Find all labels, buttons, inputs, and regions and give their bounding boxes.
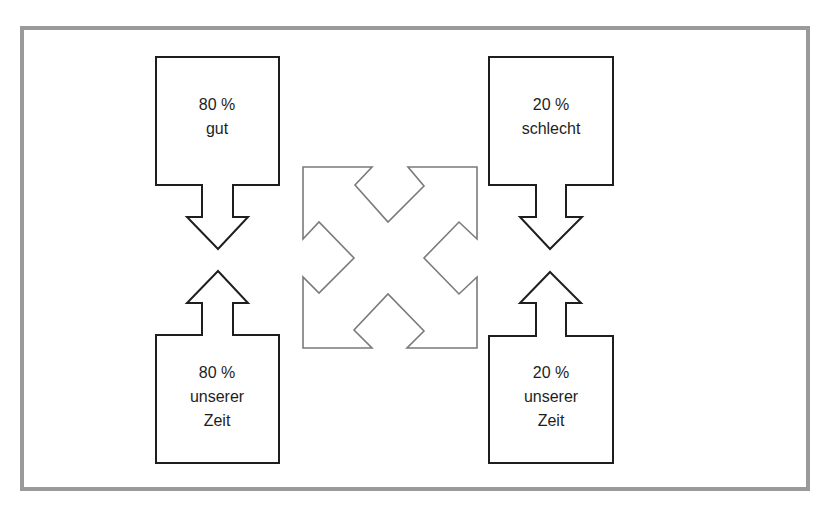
box-top-left-line-1: 80 % bbox=[199, 96, 235, 113]
pareto-diagram: 80 % gut 20 % schlecht 80 % unserer Zeit… bbox=[0, 0, 827, 514]
box-bottom-right-line-1: 20 % bbox=[533, 364, 569, 381]
four-way-arrows-icon bbox=[303, 167, 477, 348]
box-bottom-right-line-3: Zeit bbox=[538, 412, 565, 429]
box-top-right-line-2: schlecht bbox=[522, 120, 581, 137]
box-top-left-line-2: gut bbox=[206, 120, 229, 137]
box-top-right: 20 % schlecht bbox=[489, 57, 613, 249]
box-top-right-line-1: 20 % bbox=[533, 96, 569, 113]
box-bottom-left: 80 % unserer Zeit bbox=[156, 271, 279, 463]
box-bottom-left-line-2: unserer bbox=[190, 388, 245, 405]
box-bottom-left-line-3: Zeit bbox=[204, 412, 231, 429]
box-bottom-left-line-1: 80 % bbox=[199, 364, 235, 381]
box-top-left: 80 % gut bbox=[156, 57, 279, 249]
box-top-left-shape bbox=[156, 57, 279, 249]
box-bottom-right-line-2: unserer bbox=[524, 388, 579, 405]
box-top-right-shape bbox=[489, 57, 613, 249]
box-bottom-right: 20 % unserer Zeit bbox=[489, 272, 613, 463]
